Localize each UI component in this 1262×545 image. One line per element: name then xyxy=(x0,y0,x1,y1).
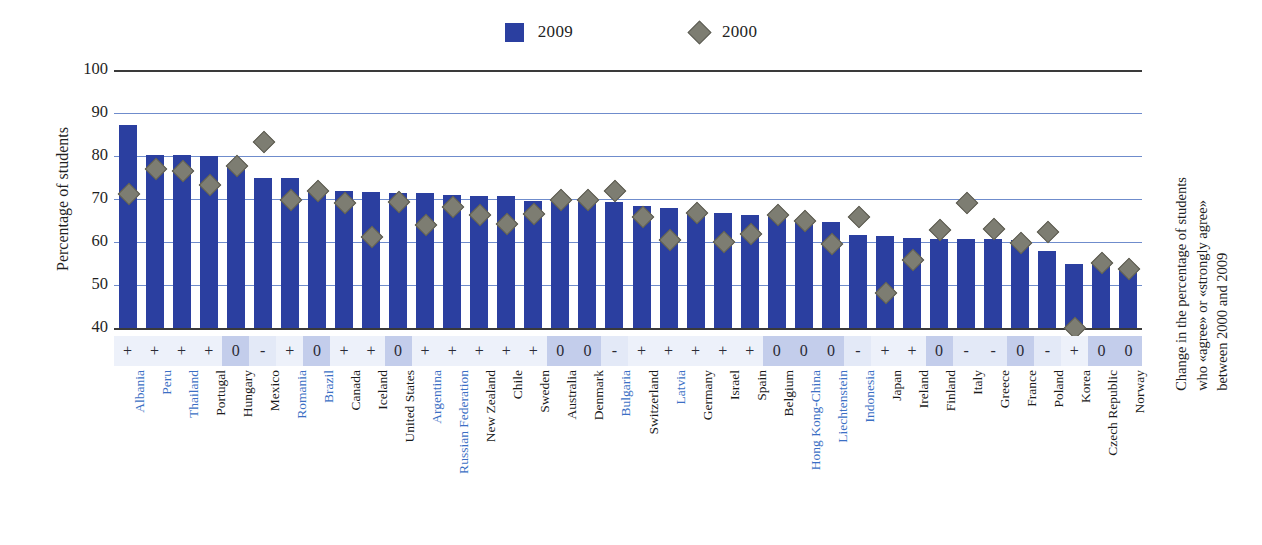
change-symbol-cell: 0 xyxy=(547,336,574,366)
change-symbol-cell: + xyxy=(466,336,493,366)
y-tick-label-70: 70 xyxy=(68,190,108,207)
legend-item-2009: 2009 xyxy=(505,22,573,42)
change-symbol-cell: 0 xyxy=(222,336,249,366)
change-symbol-cell: 0 xyxy=(1115,336,1142,366)
category-label: Albania xyxy=(114,370,141,530)
change-symbol-cell: + xyxy=(276,336,303,366)
change-symbol-cell: + xyxy=(439,336,466,366)
marker-2000 xyxy=(848,206,871,229)
change-symbol-cell: - xyxy=(980,336,1007,366)
category-label: Peru xyxy=(141,370,168,530)
bar-2009 xyxy=(957,239,975,328)
y-tick-label-60: 60 xyxy=(68,233,108,250)
bar-2009 xyxy=(687,212,705,328)
category-label: Mexico xyxy=(249,370,276,530)
category-label: Greece xyxy=(980,370,1007,530)
bar-2009 xyxy=(795,219,813,328)
category-label: New Zealand xyxy=(466,370,493,530)
change-symbol-cell: - xyxy=(953,336,980,366)
change-symbol-cell: + xyxy=(899,336,926,366)
legend-label-2000: 2000 xyxy=(722,22,757,42)
change-symbol-row: ++++0-+0++0+++++00-+++++000-++0--0-+00 xyxy=(114,336,1142,366)
bar-2009 xyxy=(605,202,623,328)
category-label: Australia xyxy=(547,370,574,530)
change-symbol-cell: + xyxy=(195,336,222,366)
change-symbol-cell: + xyxy=(628,336,655,366)
change-symbol-cell: + xyxy=(330,336,357,366)
category-label: Japan xyxy=(871,370,898,530)
category-label: Sweden xyxy=(520,370,547,530)
change-symbol-cell: 0 xyxy=(817,336,844,366)
bars-and-markers xyxy=(114,70,1142,328)
change-symbol-cell: + xyxy=(682,336,709,366)
bar-2009 xyxy=(578,202,596,328)
category-label: Hungary xyxy=(222,370,249,530)
change-symbol-cell: - xyxy=(601,336,628,366)
right-axis-title-line3: between 2000 and 2009 xyxy=(1212,39,1233,391)
change-symbol-cell: + xyxy=(1061,336,1088,366)
y-tick-label-50: 50 xyxy=(68,276,108,293)
marker-2000 xyxy=(983,218,1006,241)
category-label: Denmark xyxy=(574,370,601,530)
change-symbol-cell: - xyxy=(844,336,871,366)
change-symbol-cell: 0 xyxy=(303,336,330,366)
category-label: Ireland xyxy=(899,370,926,530)
category-label: Latvia xyxy=(655,370,682,530)
category-label: Poland xyxy=(1034,370,1061,530)
bar-2009 xyxy=(146,155,164,328)
change-symbol-cell: + xyxy=(412,336,439,366)
category-label: Norway xyxy=(1115,370,1142,530)
category-label: Brazil xyxy=(303,370,330,530)
category-label: France xyxy=(1007,370,1034,530)
right-axis-title: Change in the percentage of students who… xyxy=(1152,58,1252,410)
bar-2009 xyxy=(1038,251,1056,328)
bar-2009 xyxy=(984,239,1002,328)
change-symbol-cell: + xyxy=(871,336,898,366)
category-label: Indonesia xyxy=(844,370,871,530)
change-symbol-cell: 0 xyxy=(385,336,412,366)
bar-2009 xyxy=(849,235,867,328)
category-labels: AlbaniaPeruThailandPortugalHungaryMexico… xyxy=(114,370,1142,530)
bar-2009 xyxy=(768,217,786,328)
change-symbol-cell: 0 xyxy=(574,336,601,366)
category-label: Belgium xyxy=(763,370,790,530)
change-symbol-cell: + xyxy=(736,336,763,366)
change-symbol-cell: + xyxy=(141,336,168,366)
bar-2009 xyxy=(930,239,948,328)
category-label: Spain xyxy=(736,370,763,530)
category-label: Hong Kong-China xyxy=(790,370,817,530)
marker-2000 xyxy=(604,179,627,202)
category-label: Switzerland xyxy=(628,370,655,530)
change-symbol-cell: + xyxy=(493,336,520,366)
bar-2009 xyxy=(551,202,569,328)
category-label: Russian Federation xyxy=(439,370,466,530)
change-symbol-cell: 0 xyxy=(763,336,790,366)
chart-root: 2009 2000 Percentage of students Change … xyxy=(0,0,1262,545)
category-label: Liechtenstein xyxy=(817,370,844,530)
plot-area: 100908070605040 xyxy=(114,70,1142,328)
marker-2000 xyxy=(1037,221,1060,244)
category-label: United States xyxy=(385,370,412,530)
legend-square-icon xyxy=(505,23,524,42)
change-symbol-cell: - xyxy=(1034,336,1061,366)
change-symbol-cell: + xyxy=(114,336,141,366)
y-tick-label-100: 100 xyxy=(68,61,108,78)
category-label: Romania xyxy=(276,370,303,530)
right-axis-title-line1: Change in the percentage of students xyxy=(1171,39,1192,391)
y-tick-label-90: 90 xyxy=(68,104,108,121)
change-symbol-cell: + xyxy=(168,336,195,366)
category-label: Germany xyxy=(682,370,709,530)
bar-2009 xyxy=(119,125,137,328)
change-symbol-cell: + xyxy=(655,336,682,366)
category-label: Thailand xyxy=(168,370,195,530)
category-label: Korea xyxy=(1061,370,1088,530)
legend-diamond-icon xyxy=(687,20,711,44)
bar-2009 xyxy=(660,208,678,328)
bar-2009 xyxy=(227,165,245,328)
category-label: Israel xyxy=(709,370,736,530)
change-symbol-cell: + xyxy=(709,336,736,366)
category-label: Iceland xyxy=(357,370,384,530)
change-symbol-cell: 0 xyxy=(790,336,817,366)
category-label: Finland xyxy=(926,370,953,530)
category-label: Italy xyxy=(953,370,980,530)
